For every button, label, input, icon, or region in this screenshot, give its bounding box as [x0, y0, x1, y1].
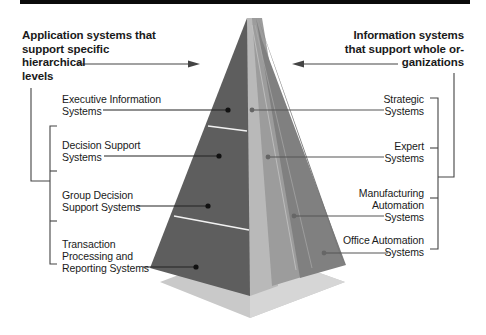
level-marker: [216, 153, 221, 158]
pyramid-left-face: [150, 18, 250, 296]
label-group-decision-support-systems: Group DecisionSupport Systems: [62, 189, 140, 213]
system-marker: [266, 155, 271, 160]
right-heading: Information systems that support whole o…: [345, 29, 464, 70]
level-marker: [225, 107, 230, 112]
arrow-left-icon: [292, 61, 304, 68]
system-marker: [322, 251, 327, 256]
label-office-automation-systems: Office AutomationSystems: [343, 234, 424, 258]
level-marker: [205, 203, 210, 208]
label-transaction-processing-systems: TransactionProcessing andReporting Syste…: [62, 238, 149, 274]
label-expert-systems: ExpertSystems: [384, 140, 424, 164]
label-decision-support-systems: Decision SupportSystems: [62, 139, 140, 163]
label-strategic-systems: StrategicSystems: [383, 93, 424, 117]
system-marker: [292, 214, 297, 219]
label-manufacturing-automation-systems: ManufacturingAutomationSystems: [359, 187, 424, 223]
system-marker: [250, 108, 255, 113]
arrow-right-icon: [188, 61, 200, 68]
left-heading: Application systems that support specifi…: [22, 29, 156, 83]
label-executive-information-systems: Executive InformationSystems: [62, 93, 161, 117]
level-marker: [193, 264, 198, 269]
